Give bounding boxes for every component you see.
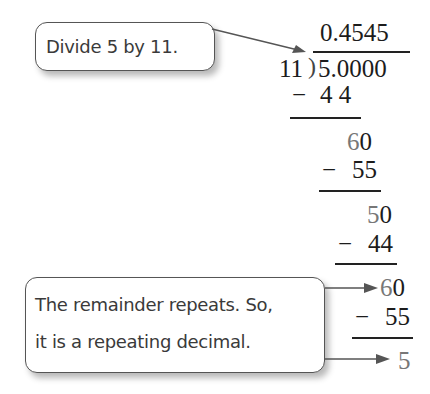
arrowhead-icon xyxy=(292,45,306,53)
arrowhead-icon xyxy=(364,283,378,293)
arrow-to-dividend xyxy=(212,29,298,50)
arrows xyxy=(0,0,430,394)
arrowhead-icon xyxy=(376,354,390,364)
